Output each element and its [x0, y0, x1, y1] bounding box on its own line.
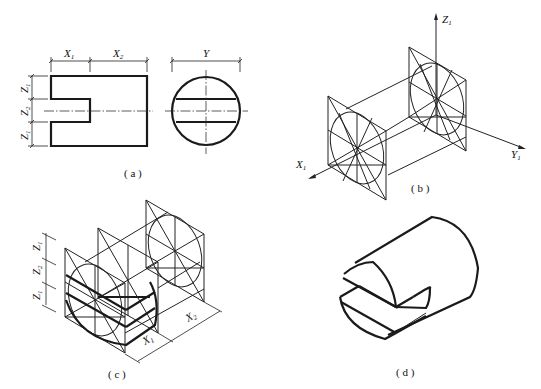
label-z1-bottom: Z1 — [18, 130, 32, 140]
technical-drawing: X1 X2 Z1 Z2 Z1 Y ( a ) — [0, 0, 541, 389]
label-z1-top: Z1 — [18, 83, 32, 93]
extension-line — [42, 305, 56, 312]
slot-edge — [396, 297, 413, 307]
lower-half-face — [340, 297, 426, 339]
caption-d: ( d ) — [396, 366, 415, 379]
x1-axis — [310, 115, 436, 178]
slot-edge — [126, 292, 155, 310]
svg-text:Z1: Z1 — [18, 130, 32, 140]
extension-line — [204, 302, 222, 312]
label-y: Y — [203, 47, 211, 59]
edge — [390, 313, 426, 336]
svg-text:Z1: Z1 — [30, 290, 44, 300]
label-z1-bottom: Z1 — [30, 290, 44, 300]
z-axis-arrow-icon — [434, 13, 438, 20]
caption-b: ( b ) — [411, 182, 430, 195]
label-z2: Z2 — [18, 106, 32, 116]
x-axis-arrow-icon — [308, 174, 316, 179]
label-x1-axis: X1 — [295, 158, 306, 172]
panel-a-orthographic-views: X1 X2 Z1 Z2 Z1 Y ( a ) — [18, 47, 248, 180]
extension-line — [42, 282, 56, 289]
caption-a: ( a ) — [124, 167, 142, 180]
upper-half-face — [343, 262, 396, 307]
label-z2: Z2 — [30, 265, 44, 275]
panel-c-axonometric-construction: Z1 Z2 Z1 — [30, 200, 222, 381]
panel-b-axes-and-end-faces: Z1 Y1 X1 — [295, 13, 526, 200]
slot-edge — [340, 286, 359, 297]
y-axis-arrow-icon — [518, 145, 526, 149]
extension-line — [42, 258, 56, 265]
extension-line — [125, 354, 140, 363]
caption-c: ( c ) — [108, 368, 126, 381]
back-end-face — [401, 47, 473, 151]
extension-line — [42, 233, 56, 240]
label-y1-axis: Y1 — [511, 148, 521, 162]
label-x1: X1 — [63, 47, 74, 61]
extension-line — [158, 333, 173, 342]
back-construction-face — [139, 200, 211, 302]
front-construction-face — [59, 248, 131, 353]
slot-edge — [359, 286, 396, 307]
slot-edge — [66, 275, 126, 310]
label-z1-top: Z1 — [30, 241, 44, 251]
label-z1-axis: Z1 — [442, 13, 452, 27]
svg-text:Z2: Z2 — [30, 265, 44, 275]
front-end-face — [321, 96, 393, 200]
cylinder-outline — [355, 217, 478, 335]
svg-text:Z1: Z1 — [30, 241, 44, 251]
connector-bottom — [388, 137, 466, 175]
panel-d-final-solid: ( d ) — [340, 217, 478, 379]
svg-text:Z1: Z1 — [18, 83, 32, 93]
label-x2: X2 — [112, 47, 124, 61]
connector-mid — [386, 117, 409, 131]
svg-text:Z2: Z2 — [18, 106, 32, 116]
connector — [85, 212, 168, 262]
label-x2: X2 — [182, 308, 199, 326]
